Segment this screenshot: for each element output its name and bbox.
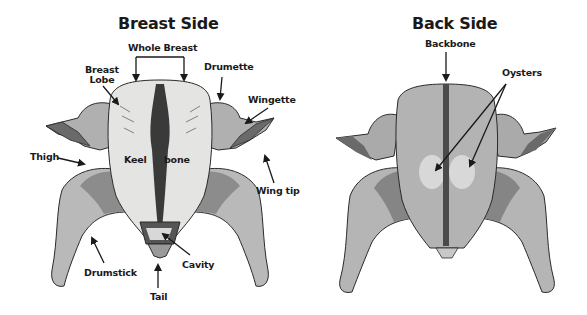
label-wingette: Wingette bbox=[248, 95, 296, 105]
label-keel: Keel bbox=[124, 155, 147, 165]
label-breast-lobe: Breast Lobe bbox=[85, 65, 119, 85]
label-drumette: Drumette bbox=[204, 62, 254, 72]
label-backbone: Backbone bbox=[425, 39, 476, 49]
label-bone: bone bbox=[164, 155, 190, 165]
label-cavity: Cavity bbox=[182, 260, 214, 270]
label-oysters: Oysters bbox=[502, 68, 542, 78]
back-side-chicken bbox=[336, 84, 556, 293]
backbone bbox=[443, 84, 449, 246]
left-oyster bbox=[419, 155, 445, 189]
right-oyster bbox=[449, 155, 475, 189]
label-wing-tip: Wing tip bbox=[256, 186, 300, 196]
label-breast-lobe-line2: Lobe bbox=[85, 75, 119, 85]
label-thigh: Thigh bbox=[30, 152, 59, 162]
label-tail: Tail bbox=[150, 292, 167, 302]
label-whole-breast: Whole Breast bbox=[128, 43, 197, 53]
breast-side-title: Breast Side bbox=[118, 14, 219, 33]
tail bbox=[148, 244, 172, 258]
chicken-anatomy-diagram: Breast Side Back Side Whole Breast Breas… bbox=[0, 0, 587, 315]
breast-side-chicken bbox=[46, 80, 274, 286]
back-side-title: Back Side bbox=[412, 14, 497, 33]
label-drumstick: Drumstick bbox=[84, 268, 137, 278]
